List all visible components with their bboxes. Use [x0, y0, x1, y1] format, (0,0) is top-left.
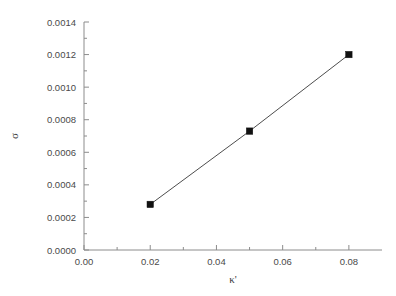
y-tick-label: 0.0012	[47, 49, 76, 60]
x-tick-label: 0.08	[340, 256, 359, 267]
y-tick-label: 0.0006	[47, 147, 76, 158]
y-tick-label: 0.0010	[47, 82, 76, 93]
data-point-marker	[346, 51, 352, 57]
x-tick-label: 0.02	[141, 256, 160, 267]
x-tick-label: 0.04	[207, 256, 226, 267]
x-tick-label: 0.00	[75, 256, 94, 267]
chart-figure: 0.00000.00020.00040.00060.00080.00100.00…	[0, 0, 396, 296]
y-tick-label: 0.0004	[47, 179, 76, 190]
data-point-marker	[147, 201, 153, 207]
x-tick-label: 0.06	[273, 256, 292, 267]
y-tick-label: 0.0002	[47, 212, 76, 223]
x-axis-title: κ'	[229, 273, 237, 285]
y-tick-label: 0.0008	[47, 114, 76, 125]
y-tick-label: 0.0000	[47, 245, 76, 256]
y-tick-label: 0.0014	[47, 17, 76, 28]
data-point-marker	[246, 128, 252, 134]
y-axis-title: σ	[8, 133, 20, 139]
plot-canvas: 0.00000.00020.00040.00060.00080.00100.00…	[0, 0, 396, 296]
